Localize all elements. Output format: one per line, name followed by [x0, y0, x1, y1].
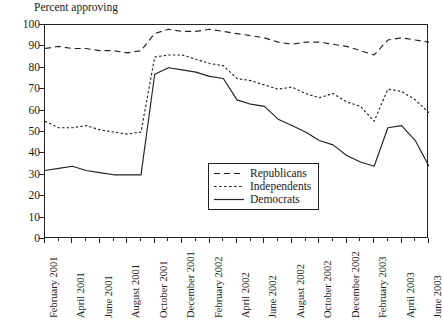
- x-axis-tick-major: [373, 238, 374, 243]
- x-axis-tick-major: [236, 238, 237, 243]
- legend-label-democrats: Democrats: [250, 193, 300, 206]
- x-axis-tick-major: [71, 238, 72, 243]
- x-axis-tick-label: June 2002: [267, 275, 278, 318]
- x-axis-tick-minor: [250, 238, 251, 241]
- y-axis-labels: 0102030405060708090100: [0, 24, 40, 238]
- x-axis-tick-major: [181, 238, 182, 243]
- chart-title: Percent approving: [34, 1, 118, 13]
- series-line-democrats: [45, 68, 429, 175]
- x-axis-tick-minor: [58, 238, 59, 241]
- x-axis-tick-major: [318, 238, 319, 243]
- legend-item-republicans: Republicans: [213, 167, 311, 180]
- x-axis-tick-major: [44, 238, 45, 243]
- x-axis-tick-minor: [113, 238, 114, 241]
- x-axis-tick-major: [428, 238, 429, 243]
- x-axis-tick-label: October 2001: [158, 261, 169, 318]
- x-axis-tick-minor: [85, 238, 86, 241]
- series-line-republicans: [45, 29, 429, 55]
- x-axis-tick-minor: [195, 238, 196, 241]
- x-axis-tick-major: [209, 238, 210, 243]
- legend-item-independents: Independents: [213, 180, 311, 193]
- x-axis-tick-label: February 2002: [213, 256, 224, 318]
- x-axis-tick-label: June 2001: [103, 275, 114, 318]
- x-axis-tick-label: August 2001: [130, 264, 141, 318]
- x-axis-tick-minor: [305, 238, 306, 241]
- x-axis-tick-label: April 2003: [405, 272, 416, 318]
- x-axis-tick-minor: [332, 238, 333, 241]
- x-axis-ticks: [44, 238, 428, 245]
- legend-item-democrats: Democrats: [213, 193, 311, 206]
- x-axis-tick-minor: [387, 238, 388, 241]
- x-axis-tick-minor: [359, 238, 360, 241]
- x-axis-tick-major: [263, 238, 264, 243]
- legend-label-independents: Independents: [250, 180, 311, 193]
- x-axis-tick-label: June 2003: [432, 275, 443, 318]
- x-axis-tick-label: February 2003: [377, 256, 388, 318]
- x-axis-tick-major: [291, 238, 292, 243]
- x-axis-tick-major: [126, 238, 127, 243]
- x-axis-tick-label: August 2002: [295, 264, 306, 318]
- x-axis-labels: February 2001April 2001June 2001August 2…: [44, 246, 428, 324]
- x-axis-tick-label: April 2001: [75, 272, 86, 318]
- x-axis-tick-major: [401, 238, 402, 243]
- x-axis-tick-label: April 2002: [240, 272, 251, 318]
- x-axis-tick-label: October 2002: [322, 261, 333, 318]
- x-axis-tick-minor: [140, 238, 141, 241]
- solid-line-icon: [213, 194, 245, 205]
- dotted-line-icon: [213, 181, 245, 192]
- x-axis-tick-label: February 2001: [48, 256, 59, 318]
- x-axis-tick-minor: [414, 238, 415, 241]
- x-axis-tick-label: December 2002: [350, 251, 361, 318]
- series-line-independents: [45, 55, 429, 134]
- legend-label-republicans: Republicans: [250, 167, 307, 180]
- x-axis-tick-minor: [222, 238, 223, 241]
- x-axis-tick-minor: [277, 238, 278, 241]
- x-axis-tick-major: [346, 238, 347, 243]
- x-axis-tick-label: December 2001: [185, 251, 196, 318]
- dashed-line-icon: [213, 168, 245, 179]
- chart-legend: Republicans Independents Democrats: [208, 163, 319, 210]
- x-axis-tick-minor: [167, 238, 168, 241]
- x-axis-tick-major: [99, 238, 100, 243]
- x-axis-tick-major: [154, 238, 155, 243]
